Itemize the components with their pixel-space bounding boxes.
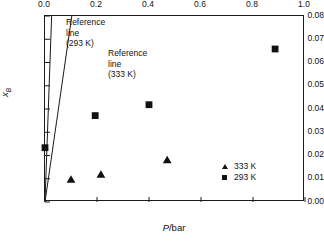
data-point-333k <box>163 156 172 164</box>
annotation-reference-line-333k: Reference line (333 K) <box>108 48 147 80</box>
y-axis-title-symbol: x <box>0 92 10 97</box>
square-marker-icon <box>222 172 233 183</box>
data-point-333k <box>97 170 106 178</box>
legend-item-293k: 293 K <box>222 172 256 183</box>
x-axis-ticks <box>45 197 305 202</box>
data-point-293k <box>272 46 279 53</box>
annotation-line: Reference <box>108 48 147 59</box>
xtick-label: 1.0 <box>284 0 324 9</box>
annotation-line: (293 K) <box>66 38 105 49</box>
chart-legend: 333 K 293 K <box>222 161 256 183</box>
xtick-label: 0.8 <box>232 0 272 9</box>
y-axis-title: xB <box>0 88 12 97</box>
annotation-line: line <box>108 59 147 70</box>
data-point-293k <box>42 144 49 151</box>
annotation-reference-line-293k: Reference line (293 K) <box>66 17 105 49</box>
legend-label: 333 K <box>233 161 256 172</box>
x-axis-title-unit: /bar <box>169 222 185 233</box>
data-point-333k <box>67 175 76 183</box>
legend-item-333k: 333 K <box>222 161 256 172</box>
xtick-label: 0.6 <box>180 0 220 9</box>
xtick-label: 0.4 <box>128 0 168 9</box>
xtick-label: 0.2 <box>76 0 116 9</box>
chart-figure: 0.08 0.07 0.06 0.05 0.04 0.03 0.02 0.01 … <box>0 0 324 245</box>
data-point-293k <box>92 112 99 119</box>
y-axis-title-subscript: B <box>5 88 12 92</box>
annotation-line: (333 K) <box>108 69 147 80</box>
annotation-line: line <box>66 28 105 39</box>
x-axis-title: P/bar <box>44 222 304 233</box>
data-point-293k <box>146 101 153 108</box>
triangle-marker-icon <box>222 161 233 172</box>
annotation-line: Reference <box>66 17 105 28</box>
legend-label: 293 K <box>233 172 256 183</box>
xtick-label: 0.0 <box>24 0 64 9</box>
